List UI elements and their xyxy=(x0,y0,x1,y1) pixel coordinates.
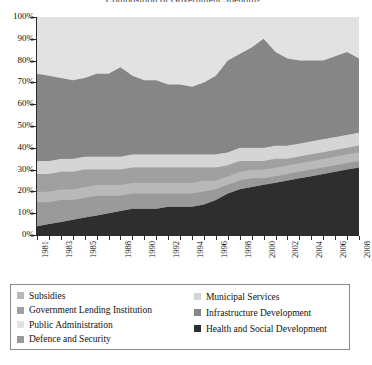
x-axis-tick xyxy=(347,236,348,240)
y-axis-labels: 0%10%20%30%40%50%60%70%80%90%100% xyxy=(0,0,34,280)
x-axis-tick xyxy=(264,236,265,240)
legend-column-right: Municipal ServicesInfrastructure Develop… xyxy=(194,290,343,345)
y-axis-tick xyxy=(30,82,36,83)
legend-item-label: Government Lending Institution xyxy=(29,305,152,315)
x-axis-tick xyxy=(168,236,169,240)
y-axis-tick xyxy=(30,39,36,40)
area-series-group xyxy=(37,17,359,235)
legend-item-label: Municipal Services xyxy=(206,292,280,302)
legend-item[interactable]: Public Administration xyxy=(17,319,194,331)
x-axis-tick xyxy=(311,236,312,240)
x-axis-tick xyxy=(109,236,110,240)
x-axis-tick xyxy=(37,236,38,240)
x-axis-tick-label: 1983 xyxy=(65,241,74,258)
legend-swatch-icon xyxy=(194,325,201,332)
x-axis-tick xyxy=(323,236,324,240)
x-axis-tick xyxy=(216,236,217,240)
x-axis-tick-label: 1988 xyxy=(124,241,133,258)
y-axis-tick xyxy=(30,104,36,105)
y-axis-tick xyxy=(30,235,36,236)
x-axis-tick-label: 2006 xyxy=(339,241,348,258)
y-axis-tick xyxy=(30,17,36,18)
x-axis-tick-label: 1996 xyxy=(220,241,229,258)
legend-item-label: Defence and Security xyxy=(29,334,111,344)
x-axis-tick xyxy=(73,236,74,240)
x-axis-tick-label: 1992 xyxy=(172,241,181,258)
y-axis-tick xyxy=(30,213,36,214)
stacked-area-chart: 0%10%20%30%40%50%60%70%80%90%100% 198119… xyxy=(0,0,367,280)
legend-item[interactable]: Infrastructure Development xyxy=(194,306,343,319)
legend-swatch-icon xyxy=(17,336,24,343)
x-axis-tick xyxy=(156,236,157,240)
legend-swatch-icon xyxy=(194,293,201,300)
x-axis-tick-label: 2008 xyxy=(363,241,372,258)
legend-column-left: SubsidiesGovernment Lending InstitutionP… xyxy=(17,290,194,345)
y-axis-tick xyxy=(30,191,36,192)
legend-item[interactable]: Government Lending Institution xyxy=(17,305,194,317)
x-axis-tick xyxy=(132,236,133,240)
y-axis-tick xyxy=(30,148,36,149)
x-axis-tick-label: 2000 xyxy=(268,241,277,258)
y-axis-tick xyxy=(30,170,36,171)
x-axis-tick-label: 1990 xyxy=(148,241,157,258)
x-axis-tick xyxy=(359,236,360,240)
plot-area xyxy=(37,17,359,235)
legend-swatch-icon xyxy=(17,292,24,299)
legend-swatch-icon xyxy=(194,309,201,316)
y-axis-tick xyxy=(30,61,36,62)
x-axis-tick-label: 2002 xyxy=(291,241,300,258)
x-axis-tick xyxy=(299,236,300,240)
legend-swatch-icon xyxy=(17,307,24,314)
x-axis-tick xyxy=(240,236,241,240)
legend: SubsidiesGovernment Lending InstitutionP… xyxy=(10,284,350,350)
x-axis-tick-label: 1981 xyxy=(41,241,50,258)
x-axis-tick-label: 1994 xyxy=(196,241,205,258)
x-axis-tick xyxy=(120,236,121,240)
x-axis-tick xyxy=(180,236,181,240)
legend-item[interactable]: Health and Social Development xyxy=(194,322,343,335)
x-axis-tick xyxy=(144,236,145,240)
x-axis-tick xyxy=(85,236,86,240)
x-axis-tick xyxy=(287,236,288,240)
x-axis-tick xyxy=(335,236,336,240)
x-axis-tick xyxy=(204,236,205,240)
legend-item-label: Infrastructure Development xyxy=(206,308,311,318)
x-axis-tick-label: 1985 xyxy=(89,241,98,258)
legend-item[interactable]: Subsidies xyxy=(17,290,194,302)
legend-item-label: Health and Social Development xyxy=(206,324,327,334)
x-axis-tick xyxy=(228,236,229,240)
plot-wrap xyxy=(37,17,359,235)
x-axis-tick xyxy=(49,236,50,240)
legend-item[interactable]: Defence and Security xyxy=(17,334,194,346)
x-axis-tick xyxy=(61,236,62,240)
legend-item-label: Subsidies xyxy=(29,291,65,301)
legend-swatch-icon xyxy=(17,321,24,328)
x-axis-tick xyxy=(192,236,193,240)
y-axis-tick xyxy=(30,126,36,127)
x-axis-tick xyxy=(252,236,253,240)
x-axis-tick-label: 2004 xyxy=(315,241,324,258)
x-axis-tick-label: 1998 xyxy=(244,241,253,258)
legend-item-label: Public Administration xyxy=(29,320,113,330)
legend-item[interactable]: Municipal Services xyxy=(194,290,343,303)
x-axis-tick xyxy=(276,236,277,240)
x-axis-tick xyxy=(97,236,98,240)
